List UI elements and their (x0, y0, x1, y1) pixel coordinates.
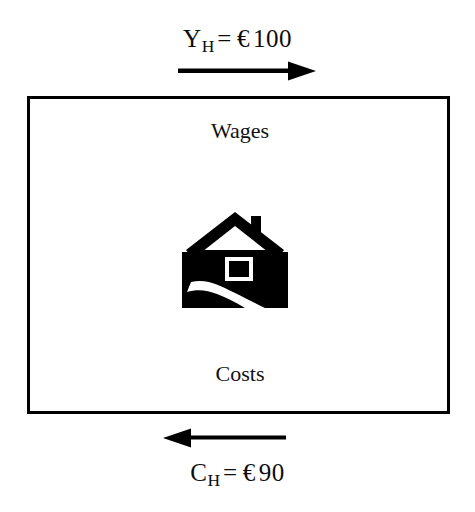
euro-currency-symbol: € (237, 25, 250, 52)
income-operator: = (217, 25, 232, 52)
consumption-variable: C (190, 459, 207, 486)
wages-label: Wages (30, 120, 450, 142)
income-arrow-right (178, 60, 318, 86)
income-amount: 100 (253, 25, 292, 52)
euro-currency-symbol: € (243, 459, 256, 486)
house-icon (181, 210, 289, 309)
consumption-amount: 90 (259, 459, 285, 486)
consumption-flow-label: CH=€90 (0, 460, 475, 489)
consumption-operator: = (223, 459, 238, 486)
consumption-variable-subscript: H (207, 470, 220, 490)
income-variable: Y (183, 25, 202, 52)
consumption-arrow-left (163, 427, 288, 453)
income-flow-label: YH=€100 (0, 26, 475, 55)
costs-label: Costs (30, 363, 450, 385)
diagram-canvas: YH=€100 Wages (0, 0, 475, 512)
income-variable-subscript: H (202, 36, 215, 56)
